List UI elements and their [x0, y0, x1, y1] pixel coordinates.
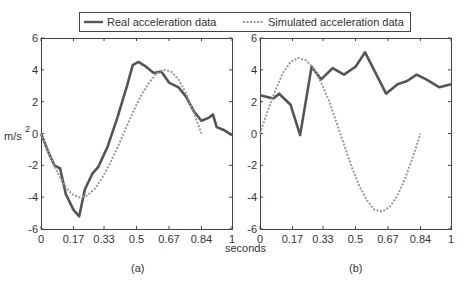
- panel-a-caption: (a): [131, 262, 144, 274]
- simulated-series-line: [41, 70, 201, 197]
- y-axis-label-superscript: 2: [25, 124, 30, 134]
- y-tick-label: -2: [247, 159, 257, 171]
- y-tick-label: 4: [251, 64, 257, 76]
- y-tick-label: 6: [251, 32, 257, 44]
- real-series-line: [260, 52, 451, 135]
- y-tick-label: 0: [32, 128, 38, 140]
- legend-sim-label: Simulated acceleration data: [268, 16, 405, 28]
- y-tick-label: 0: [251, 128, 257, 140]
- x-tick-label: 0.33: [312, 233, 333, 245]
- x-tick-label: 0.33: [93, 233, 114, 245]
- x-tick-label: 0.17: [63, 233, 84, 245]
- panel-a: 00.170.330.50.670.841-6-4-20246: [28, 32, 235, 245]
- simulated-series-line: [260, 58, 420, 212]
- x-axis-label: seconds: [225, 242, 266, 254]
- x-tick-label: 1: [448, 233, 454, 245]
- panel-b-caption: (b): [349, 262, 362, 274]
- y-tick-label: 6: [32, 32, 38, 44]
- x-tick-label: 0.67: [377, 233, 398, 245]
- y-tick-label: 2: [251, 96, 257, 108]
- figure: Real acceleration data Simulated acceler…: [0, 0, 467, 285]
- y-tick-label: -4: [247, 191, 257, 203]
- legend: Real acceleration data Simulated acceler…: [80, 13, 411, 32]
- x-tick-label: 0.5: [348, 233, 363, 245]
- panel-b: 00.170.330.50.670.841-6-4-20246: [247, 32, 454, 245]
- y-tick-label: -6: [247, 223, 257, 235]
- y-tick-label: -6: [28, 223, 38, 235]
- x-tick-label: 0: [38, 233, 44, 245]
- x-tick-label: 0.5: [129, 233, 144, 245]
- y-axis-label: m/s: [4, 130, 22, 142]
- y-tick-label: 2: [32, 96, 38, 108]
- x-tick-label: 0.84: [410, 233, 431, 245]
- legend-real-label: Real acceleration data: [107, 16, 217, 28]
- y-tick-label: 4: [32, 64, 38, 76]
- x-tick-label: 0.67: [158, 233, 179, 245]
- x-tick-label: 0.84: [191, 233, 212, 245]
- y-tick-label: -2: [28, 159, 38, 171]
- y-tick-label: -4: [28, 191, 38, 203]
- x-tick-label: 0.17: [282, 233, 303, 245]
